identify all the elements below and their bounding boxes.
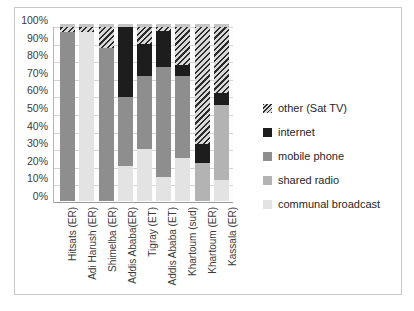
bar-top-cap (118, 24, 133, 27)
y-axis-tick-label: 70% (27, 68, 48, 78)
bar-top-cap (137, 24, 152, 27)
stacked-bar[interactable] (156, 27, 171, 201)
bar-segment-other-sat-tv[interactable] (175, 27, 190, 65)
y-axis-tick-label: 90% (27, 33, 48, 43)
bar-segment-communal-broadcast[interactable] (175, 158, 190, 202)
y-axis-tick-label: 20% (27, 156, 48, 166)
bar-segment-internet[interactable] (156, 31, 171, 68)
legend-item[interactable]: other (Sat TV) (263, 96, 403, 120)
x-axis-label-slot: Addis Ababa(ER) (117, 205, 137, 293)
legend-swatch-icon (263, 104, 272, 113)
plot-area (53, 27, 233, 203)
x-axis: Hitsats (ER)Adi Harush (ER)Shimelba (ER)… (57, 205, 237, 293)
legend-label: internet (278, 126, 315, 138)
bar-segment-mobile-phone[interactable] (118, 97, 133, 167)
bar-segment-shared-radio[interactable] (195, 163, 210, 201)
x-axis-label-slot: Tigray (ET) (137, 205, 157, 293)
legend-item[interactable]: internet (263, 120, 403, 144)
x-axis-label-slot: Kassala (ER) (217, 205, 237, 293)
stacked-bar[interactable] (214, 27, 229, 201)
legend-swatch-icon (263, 128, 272, 137)
bar-segment-communal-broadcast[interactable] (137, 149, 152, 201)
stacked-bar[interactable] (118, 27, 133, 201)
bar-top-cap (214, 24, 229, 27)
x-axis-label-slot: Khartoum (ER) (197, 205, 217, 293)
bar-slot (193, 27, 212, 201)
chart-legend: other (Sat TV)internetmobile phoneshared… (263, 96, 403, 216)
bar-segment-mobile-phone[interactable] (175, 76, 190, 158)
bar-segment-other-sat-tv[interactable] (137, 27, 152, 44)
bar-slot (212, 27, 231, 201)
x-axis-label-slot: Khartoum (sud) (177, 205, 197, 293)
legend-swatch-icon (263, 200, 272, 209)
bar-top-cap (99, 24, 114, 27)
y-axis-tick-label: 100% (21, 15, 48, 25)
bar-segment-internet[interactable] (118, 27, 133, 97)
bar-top-cap (79, 24, 94, 27)
y-axis: 100%90%80%70%60%50%40%30%20%10%0% (15, 20, 51, 196)
bar-top-cap (175, 24, 190, 27)
stacked-bar[interactable] (60, 27, 75, 201)
bar-segment-mobile-phone[interactable] (99, 48, 114, 201)
legend-label: mobile phone (278, 150, 344, 162)
bar-segment-mobile-phone[interactable] (156, 67, 171, 177)
plot-area-wrapper (53, 27, 233, 203)
bar-segment-internet[interactable] (175, 65, 190, 75)
legend-label: other (Sat TV) (278, 102, 347, 114)
y-axis-tick-label: 80% (27, 50, 48, 60)
bar-slot (154, 27, 173, 201)
bar-segment-mobile-phone[interactable] (60, 32, 75, 201)
bar-segment-other-sat-tv[interactable] (195, 27, 210, 144)
bar-segment-shared-radio[interactable] (214, 105, 229, 180)
bar-slot (135, 27, 154, 201)
bar-group (58, 27, 231, 201)
legend-item[interactable]: communal broadcast (263, 192, 403, 216)
stacked-bar[interactable] (137, 27, 152, 201)
x-axis-label-slot: Hitsats (ER) (57, 205, 77, 293)
legend-label: communal broadcast (278, 198, 380, 210)
bar-top-cap (60, 24, 75, 27)
bar-segment-internet[interactable] (214, 93, 229, 105)
y-axis-tick-label: 50% (27, 103, 48, 113)
bar-segment-other-sat-tv[interactable] (214, 27, 229, 93)
legend-item[interactable]: mobile phone (263, 144, 403, 168)
bar-slot (58, 27, 77, 201)
y-axis-tick-label: 10% (27, 173, 48, 183)
stacked-bar[interactable] (195, 27, 210, 201)
bar-slot (77, 27, 96, 201)
bar-segment-internet[interactable] (137, 44, 152, 75)
x-axis-label-slot: Adi Harush (ER) (77, 205, 97, 293)
bar-slot (116, 27, 135, 201)
legend-swatch-icon (263, 152, 272, 161)
y-axis-tick-label: 40% (27, 121, 48, 131)
bar-top-cap (156, 24, 171, 27)
bar-segment-communal-broadcast[interactable] (214, 180, 229, 201)
bar-segment-internet[interactable] (195, 144, 210, 163)
x-axis-tick-label: Kassala (ER) (227, 207, 238, 266)
bar-segment-communal-broadcast[interactable] (118, 166, 133, 201)
stacked-bar[interactable] (175, 27, 190, 201)
bar-slot (96, 27, 115, 201)
bar-top-cap (195, 24, 210, 27)
bar-segment-other-sat-tv[interactable] (99, 27, 114, 48)
legend-swatch-icon (263, 176, 272, 185)
legend-item[interactable]: shared radio (263, 168, 403, 192)
bar-segment-communal-broadcast[interactable] (79, 32, 94, 201)
bar-slot (173, 27, 192, 201)
bar-segment-communal-broadcast[interactable] (156, 177, 171, 201)
y-axis-tick-label: 60% (27, 85, 48, 95)
x-axis-label-slot: Shimelba (ER) (97, 205, 117, 293)
y-axis-tick-label: 0% (33, 191, 48, 201)
legend-label: shared radio (278, 174, 339, 186)
stacked-bar[interactable] (99, 27, 114, 201)
bar-segment-mobile-phone[interactable] (137, 76, 152, 149)
y-axis-tick-label: 30% (27, 138, 48, 148)
x-axis-label-slot: Addis Ababa (ET) (157, 205, 177, 293)
stacked-bar[interactable] (79, 27, 94, 201)
chart-container: 100%90%80%70%60%50%40%30%20%10%0% Hitsat… (14, 7, 402, 295)
